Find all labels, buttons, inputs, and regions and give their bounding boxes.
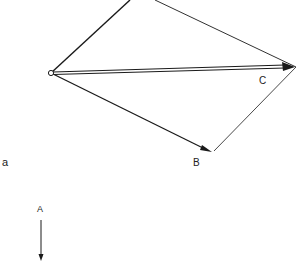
parallelogram-top-right-side xyxy=(155,0,296,67)
vector-b-shaft xyxy=(51,73,207,150)
vector-upper-side xyxy=(51,0,130,73)
vector-a-arrowhead-icon xyxy=(39,254,44,261)
vector-a-label: A xyxy=(37,205,43,214)
panel-label: a xyxy=(2,157,8,168)
parallelogram-bottom-right-side xyxy=(214,67,296,151)
vector-b-arrowhead-icon xyxy=(200,145,212,152)
origin-point-icon xyxy=(48,70,53,75)
vector-c-label: C xyxy=(259,76,266,86)
vector-b-label: B xyxy=(193,158,200,168)
parallelogram-diagram xyxy=(0,0,298,261)
